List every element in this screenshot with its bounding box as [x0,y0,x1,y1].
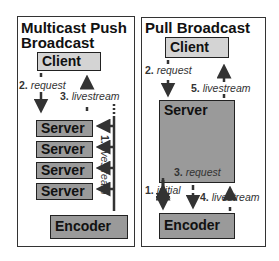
arrows-layer [0,0,279,261]
